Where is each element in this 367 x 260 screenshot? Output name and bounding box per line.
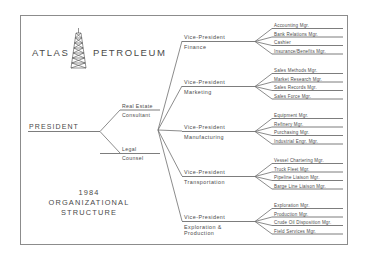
- division-title-4-line2: Exploration &: [184, 224, 222, 230]
- division-title-1-line1: Vice-President: [184, 79, 225, 85]
- president-label: PRESIDENT: [29, 123, 79, 130]
- report-3-2: Pipeline Liaison Mgr.: [274, 175, 320, 180]
- division-title-3-line1: Vice-President: [184, 169, 225, 175]
- report-3-3: Barge Line Liaison Mgr.: [274, 184, 326, 189]
- brand-name-left: ATLAS: [32, 47, 69, 58]
- division-title-3-line2: Transportation: [184, 179, 225, 185]
- report-4-2: Crude Oil Disposition Mgr.: [274, 220, 331, 225]
- title-line-2: STRUCTURE: [61, 208, 117, 217]
- report-1-2: Sales Records Mgr.: [274, 85, 317, 90]
- report-0-3: Insurance/Benefits Mgr.: [274, 49, 326, 54]
- division-title-1-line2: Marketing: [184, 89, 212, 95]
- staff-label-0-line1: Real Estate: [122, 103, 153, 109]
- report-0-0: Accounting Mgr.: [274, 23, 309, 28]
- title-block: 1984 ORGANIZATIONAL STRUCTURE: [49, 188, 130, 217]
- division-title-0-line2: Finance: [184, 44, 206, 50]
- report-4-0: Exploration Mgr.: [274, 203, 310, 208]
- division-title-4-line1: Vice-President: [184, 214, 225, 220]
- report-2-2: Purchasing Mgr.: [274, 130, 310, 135]
- division-branch-lines: [158, 41, 182, 221]
- report-3-0: Vessel Chartering Mgr.: [274, 158, 324, 163]
- company-logo-group: ATLAS PETROLEUM: [32, 28, 167, 68]
- division-exploration-production: Vice-President Exploration & Production …: [182, 203, 343, 236]
- org-chart-page: ATLAS PETROLEUM PRESIDENT Real Estate Co…: [0, 0, 367, 260]
- oil-derrick-icon: [71, 28, 86, 68]
- report-0-1: Bank Relations Mgr.: [274, 32, 318, 37]
- report-4-3: Field Services Mgr.: [274, 229, 316, 234]
- report-2-0: Equipment Mgr.: [274, 113, 308, 118]
- division-marketing: Vice-President Marketing Sales Methods M…: [182, 68, 343, 99]
- report-2-3: Industrial Engr. Mgr.: [274, 139, 318, 144]
- org-chart-canvas: ATLAS PETROLEUM PRESIDENT Real Estate Co…: [0, 0, 367, 260]
- division-title-4-line3: Production: [184, 230, 214, 236]
- staff-branch-real-estate: Real Estate Consultant: [100, 103, 160, 132]
- report-1-3: Sales Force Mgr.: [274, 94, 311, 99]
- staff-label-0-line2: Consultant: [122, 112, 151, 118]
- title-year: 1984: [78, 188, 99, 197]
- title-line-1: ORGANIZATIONAL: [49, 198, 130, 207]
- brand-name-right: PETROLEUM: [93, 47, 167, 58]
- staff-label-1-line2: Counsel: [122, 155, 143, 161]
- division-title-2-line2: Manufacturing: [184, 134, 224, 140]
- president-node: PRESIDENT: [28, 123, 100, 132]
- report-2-1: Refinery Mgr.: [274, 122, 303, 127]
- staff-label-1-line1: Legal: [122, 146, 136, 152]
- division-manufacturing: Vice-President Manufacturing Equipment M…: [182, 113, 343, 144]
- report-0-2: Cashier: [274, 40, 291, 45]
- report-1-0: Sales Methods Mgr.: [274, 68, 317, 73]
- division-transportation: Vice-President Transportation Vessel Cha…: [182, 158, 343, 189]
- division-title-0-line1: Vice-President: [184, 34, 225, 40]
- report-4-1: Production Mgr.: [274, 212, 309, 217]
- report-1-1: Market Research Mgr.: [274, 77, 322, 82]
- report-3-1: Truck Fleet Mgr.: [274, 167, 310, 172]
- division-finance: Vice-President Finance Accounting Mgr. B…: [182, 23, 343, 54]
- staff-branch-legal: Legal Counsel: [100, 132, 160, 162]
- division-title-2-line1: Vice-President: [184, 124, 225, 130]
